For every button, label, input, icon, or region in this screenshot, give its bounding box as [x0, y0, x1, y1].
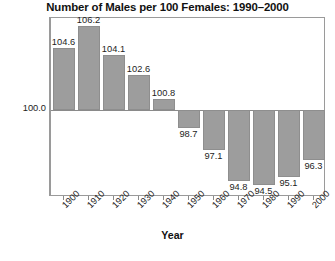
bar-group-1920: 104.1 [101, 18, 126, 195]
bar-1940[interactable] [153, 99, 175, 110]
plot-area: 104.6106.2104.1102.6100.898.797.194.894.… [51, 18, 324, 195]
bar-1910[interactable] [78, 26, 100, 110]
bar-1900[interactable] [53, 48, 75, 110]
bar-1930[interactable] [128, 75, 150, 110]
bar-group-1970: 94.8 [226, 18, 251, 195]
bar-group-1980: 94.5 [251, 18, 276, 195]
bar-group-1950: 98.7 [176, 18, 201, 195]
bar-value-label-1960: 97.1 [204, 151, 222, 161]
x-axis-title: Year [0, 229, 335, 241]
bar-group-1960: 97.1 [201, 18, 226, 195]
bar-2000[interactable] [303, 110, 325, 160]
bar-value-label-1920: 104.1 [102, 44, 125, 54]
bar-value-label-1970: 94.8 [229, 182, 247, 192]
bar-1990[interactable] [278, 110, 300, 176]
bar-group-1910: 106.2 [76, 18, 101, 195]
chart-title: Number of Males per 100 Females: 1990–20… [0, 1, 335, 13]
chart-figure: Number of Males per 100 Females: 1990–20… [0, 0, 335, 261]
bar-1950[interactable] [178, 110, 200, 128]
bar-1970[interactable] [228, 110, 250, 181]
bar-group-1990: 95.1 [276, 18, 301, 195]
bar-value-label-2000: 96.3 [304, 161, 322, 171]
bar-value-label-1940: 100.8 [152, 88, 175, 98]
plot-frame: 104.6106.2104.1102.6100.898.797.194.894.… [50, 17, 325, 196]
bar-value-label-1990: 95.1 [279, 178, 297, 188]
bar-value-label-1950: 98.7 [179, 129, 197, 139]
bar-value-label-1930: 102.6 [127, 64, 150, 74]
bar-1980[interactable] [253, 110, 275, 185]
bar-value-label-1900: 104.6 [52, 37, 75, 47]
bar-group-1900: 104.6 [51, 18, 76, 195]
y-axis-tick-label-100: 100.0 [2, 103, 46, 113]
bar-1920[interactable] [103, 55, 125, 111]
bar-group-2000: 96.3 [301, 18, 326, 195]
bar-group-1940: 100.8 [151, 18, 176, 195]
bar-1960[interactable] [203, 110, 225, 149]
bar-value-label-1910: 106.2 [77, 15, 100, 25]
bar-group-1930: 102.6 [126, 18, 151, 195]
